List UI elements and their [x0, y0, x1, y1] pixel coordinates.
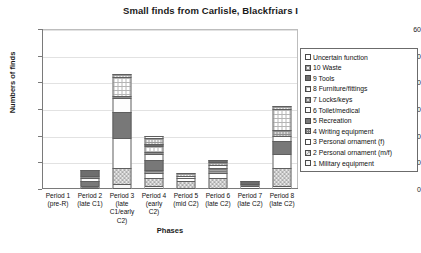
legend-box: Uncertain function10 Waste9 Tools8 Furni…: [300, 48, 418, 172]
bar-slot[interactable]: [266, 29, 298, 189]
x-category-label: Period 5(mid C2): [170, 192, 202, 208]
bar-segment[interactable]: [145, 160, 164, 171]
legend-swatch-icon: [305, 160, 311, 166]
bar-segment[interactable]: [273, 109, 292, 130]
x-category-label-line: (late C2): [202, 200, 234, 208]
legend-label: 8 Furniture/fittings: [313, 85, 367, 92]
x-category-label: Period 7(late C2): [234, 192, 266, 208]
legend-label: 1 Military equipment: [313, 160, 374, 167]
bar-segment[interactable]: [273, 141, 292, 154]
x-category-label: Period 2(late C1): [74, 192, 106, 208]
bar-stack[interactable]: [113, 74, 132, 189]
x-category-label-line: Period 3: [106, 192, 138, 200]
y-tick-label: 60: [385, 26, 421, 33]
legend-label: 6 Toilet/medical: [313, 107, 360, 114]
legend-label: 4 Writing equipment: [313, 128, 373, 135]
x-category-label-line: (pre-R): [42, 200, 74, 208]
bar-slot[interactable]: [74, 29, 106, 189]
chart-container: Small finds from Carlisle, Blackfriars I…: [0, 0, 421, 253]
bar-segment[interactable]: [177, 181, 196, 189]
legend-label: 5 Recreation: [313, 117, 352, 124]
legend-swatch-icon: [305, 97, 311, 103]
bar-segment[interactable]: [113, 184, 132, 189]
x-category-label: Period 8(late C2): [266, 192, 298, 208]
x-category-label-line: (late: [106, 200, 138, 208]
legend-item[interactable]: 6 Toilet/medical: [305, 105, 414, 116]
legend-swatch-icon: [305, 54, 311, 60]
y-tick-mark: [38, 189, 42, 190]
y-tick-label: 0: [385, 186, 421, 193]
chart-title: Small finds from Carlisle, Blackfriars I: [0, 5, 421, 16]
bar-slot[interactable]: [202, 29, 234, 189]
legend-label: 3 Personal ornament (f): [313, 138, 384, 145]
bar-slot[interactable]: [42, 29, 74, 189]
legend-label: 9 Tools: [313, 75, 334, 82]
legend-swatch-icon: [305, 75, 311, 81]
x-category-label-line: Period 8: [266, 192, 298, 200]
y-axis-title: Numbers of finds: [8, 23, 17, 143]
bar-stack[interactable]: [241, 181, 260, 189]
bar-slot[interactable]: [234, 29, 266, 189]
bar-slot[interactable]: [170, 29, 202, 189]
legend-item[interactable]: 8 Furniture/fittings: [305, 84, 414, 95]
legend-item[interactable]: 10 Waste: [305, 63, 414, 74]
legend-label: 7 Locks/keys: [313, 96, 352, 103]
x-axis-category-labels: Period 1(pre-R)Period 2(late C1)Period 3…: [42, 192, 298, 248]
x-category-label: Period 4(earlyC2): [138, 192, 170, 217]
legend-item[interactable]: Uncertain function: [305, 52, 414, 63]
bar-stack[interactable]: [177, 173, 196, 189]
legend-swatch-icon: [305, 150, 311, 156]
bar-segment[interactable]: [113, 77, 132, 96]
x-category-label-line: Period 2: [74, 192, 106, 200]
legend-item[interactable]: 9 Tools: [305, 73, 414, 84]
legend-item[interactable]: 7 Locks/keys: [305, 94, 414, 105]
x-axis-title: Phases: [42, 226, 298, 235]
x-category-label-line: C1/early: [106, 208, 138, 216]
bar-segment[interactable]: [113, 138, 132, 167]
bar-segment[interactable]: [113, 168, 132, 184]
bar-segment[interactable]: [113, 98, 132, 111]
legend-label: 10 Waste: [313, 64, 341, 71]
bar-segment[interactable]: [209, 178, 228, 189]
legend-swatch-icon: [305, 139, 311, 145]
bar-stack[interactable]: [209, 160, 228, 189]
x-category-label-line: (late C1): [74, 200, 106, 208]
bar-slot[interactable]: [138, 29, 170, 189]
legend-swatch-icon: [305, 65, 311, 71]
legend-item[interactable]: 2 Personal ornament (m/f): [305, 147, 414, 158]
bar-segment[interactable]: [273, 154, 292, 167]
bar-segment[interactable]: [241, 186, 260, 189]
x-category-label-line: (mid C2): [170, 200, 202, 208]
bar-stack[interactable]: [273, 106, 292, 189]
bar-stack[interactable]: [145, 136, 164, 189]
legend-item[interactable]: 4 Writing equipment: [305, 126, 414, 137]
x-category-label-line: (late C2): [234, 200, 266, 208]
x-category-label-line: Period 1: [42, 192, 74, 200]
x-category-label-line: Period 6: [202, 192, 234, 200]
x-category-label: Period 1(pre-R): [42, 192, 74, 208]
x-category-label-line: C2): [106, 217, 138, 225]
legend-item[interactable]: 1 Military equipment: [305, 158, 414, 169]
legend-item[interactable]: 5 Recreation: [305, 116, 414, 127]
bar-segment[interactable]: [113, 112, 132, 139]
x-category-label-line: Period 5: [170, 192, 202, 200]
legend-label: 2 Personal ornament (m/f): [313, 149, 392, 156]
legend-swatch-icon: [305, 118, 311, 124]
x-category-label-line: (late C2): [266, 200, 298, 208]
bar-segment[interactable]: [145, 178, 164, 186]
x-category-label-line: (early: [138, 200, 170, 208]
bar-stack[interactable]: [81, 170, 100, 189]
x-category-label-line: Period 7: [234, 192, 266, 200]
x-category-label: Period 6(late C2): [202, 192, 234, 208]
bar-slot[interactable]: [106, 29, 138, 189]
x-category-label-line: Period 4: [138, 192, 170, 200]
bar-series-group: [42, 29, 298, 189]
legend-item[interactable]: 3 Personal ornament (f): [305, 137, 414, 148]
bar-segment[interactable]: [273, 168, 292, 187]
x-category-label-line: C2): [138, 208, 170, 216]
bar-segment[interactable]: [145, 186, 164, 189]
bar-segment[interactable]: [273, 186, 292, 189]
legend-label: Uncertain function: [313, 54, 368, 61]
legend-swatch-icon: [305, 128, 311, 134]
bar-segment[interactable]: [81, 186, 100, 189]
